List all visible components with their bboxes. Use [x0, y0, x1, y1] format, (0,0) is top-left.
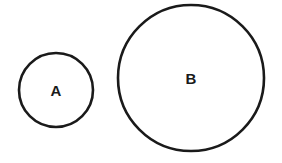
circle-a-label: A — [51, 82, 62, 99]
circle-a-group: A — [19, 53, 93, 127]
diagram-canvas: A B — [0, 0, 282, 163]
circle-b-label: B — [186, 70, 197, 87]
circle-b-group: B — [118, 5, 264, 151]
